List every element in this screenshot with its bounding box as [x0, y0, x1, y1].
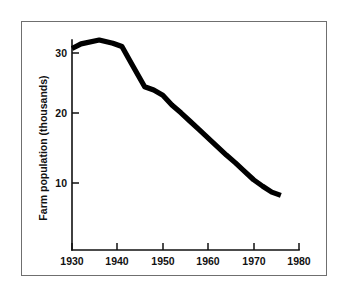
y-axis-title: Farm population (thousands) [37, 75, 49, 220]
chart-page: 30 20 10 1930 1940 1950 1960 1970 1980 F… [0, 0, 347, 298]
x-tick-label-1960: 1960 [196, 255, 220, 267]
y-tick-label-20: 20 [55, 107, 67, 119]
x-tick-label-1980: 1980 [287, 255, 311, 267]
y-tick-label-30: 30 [55, 47, 67, 59]
line-chart: 30 20 10 1930 1940 1950 1960 1970 1980 F… [0, 0, 347, 298]
y-tick-label-10: 10 [55, 177, 67, 189]
x-tick-label-1930: 1930 [60, 255, 84, 267]
x-tick-marks [72, 243, 299, 250]
x-tick-label-1940: 1940 [105, 255, 129, 267]
y-tick-marks [72, 53, 79, 183]
x-tick-label-1970: 1970 [242, 255, 266, 267]
x-tick-label-1950: 1950 [151, 255, 175, 267]
data-series-farm-population [72, 40, 281, 195]
